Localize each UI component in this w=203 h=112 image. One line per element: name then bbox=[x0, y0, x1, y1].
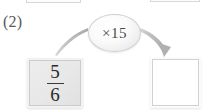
fraction-numerator: 5 bbox=[47, 62, 63, 82]
operator-oval: ×15 bbox=[88, 14, 141, 52]
input-value-box: 5 6 bbox=[27, 58, 83, 108]
answer-box-value bbox=[175, 82, 176, 83]
previous-row-right-box bbox=[150, 0, 200, 2]
operator-label: ×15 bbox=[102, 26, 127, 41]
previous-row-left-box bbox=[26, 0, 81, 3]
problem-number-label: (2) bbox=[3, 14, 22, 30]
worksheet-problem-canvas: (2) ×15 5 6 bbox=[0, 0, 203, 112]
fraction-denominator: 6 bbox=[47, 85, 63, 105]
answer-box[interactable] bbox=[150, 57, 201, 108]
fraction-five-sixths: 5 6 bbox=[47, 62, 64, 105]
